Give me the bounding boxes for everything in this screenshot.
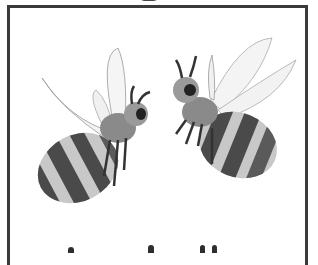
right-bee [173, 38, 296, 209]
left-bee [6, 48, 150, 232]
